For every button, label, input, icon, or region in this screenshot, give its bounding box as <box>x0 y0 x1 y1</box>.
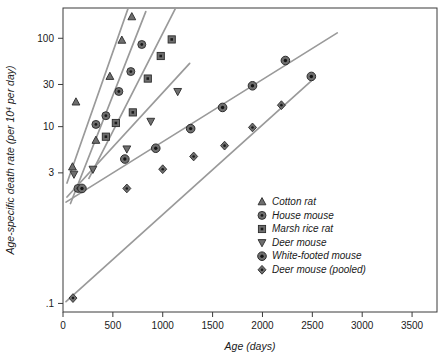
legend-marker-circle-dot-icon <box>258 211 266 219</box>
legend-marker-square-dot-icon <box>258 225 265 232</box>
x-tick-label: 500 <box>105 320 122 331</box>
legend-item-label: Deer mouse <box>272 237 327 248</box>
data-point-white-footed-mouse <box>121 155 130 164</box>
data-point-white-footed-mouse <box>248 81 257 90</box>
y-tick-label: 3 <box>48 167 54 178</box>
y-tick-label: 30 <box>43 79 55 90</box>
x-axis-title-group: Age (days) <box>224 340 276 352</box>
data-point-white-footed-mouse <box>186 124 195 133</box>
y-tick-label: 10 <box>43 121 55 132</box>
data-point-house-mouse <box>138 41 146 49</box>
y-tick-label: 100 <box>37 33 54 44</box>
data-point-marsh-rice-rat <box>129 109 136 116</box>
y-tick-label: .1 <box>46 298 55 309</box>
data-point-white-footed-mouse <box>78 184 87 193</box>
chart-figure-root: Age-specific death rate (per 104 per day… <box>0 0 444 357</box>
data-point-marsh-rice-rat <box>102 133 109 140</box>
x-tick-label: 2000 <box>251 320 274 331</box>
x-tick-label: 3000 <box>351 320 374 331</box>
legend-item-white-footed-mouse: White-footed mouse <box>258 250 362 261</box>
y-axis-title-main: Age-specific death rate (per 10 <box>4 111 16 256</box>
mortality-scatter-chart: Age-specific death rate (per 104 per day… <box>0 0 444 357</box>
data-point-house-mouse <box>102 112 110 120</box>
legend-item-label: Cotton rat <box>272 196 317 207</box>
legend-item-label: House mouse <box>272 210 334 221</box>
x-tick-label: 2500 <box>301 320 324 331</box>
x-tick-label: 1500 <box>201 320 224 331</box>
data-point-marsh-rice-rat <box>112 119 119 126</box>
legend-item-label: Deer mouse (pooled) <box>272 264 366 275</box>
data-point-white-footed-mouse <box>281 56 290 65</box>
x-axis-title: Age (days) <box>224 340 276 352</box>
x-tick-label: 1000 <box>152 320 175 331</box>
legend-item-deer-mouse-pooled: Deer mouse (pooled) <box>258 264 366 275</box>
legend-marker-circle-target-icon <box>258 252 267 261</box>
data-point-white-footed-mouse <box>218 103 227 112</box>
y-axis-title-group: Age-specific death rate (per 104 per day… <box>4 66 16 256</box>
data-point-house-mouse <box>92 120 100 128</box>
data-point-marsh-rice-rat <box>157 52 164 59</box>
x-tick-label: 0 <box>60 320 66 331</box>
legend-item-label: Marsh rice rat <box>272 223 334 234</box>
data-point-white-footed-mouse <box>307 72 316 81</box>
data-point-house-mouse <box>115 87 123 95</box>
x-tick-label: 3500 <box>401 320 424 331</box>
data-point-marsh-rice-rat <box>168 36 175 43</box>
y-axis-title-tail: per day) <box>4 66 16 107</box>
chart-background <box>0 0 444 357</box>
legend-item-label: White-footed mouse <box>272 250 362 261</box>
data-point-marsh-rice-rat <box>144 75 151 82</box>
data-point-white-footed-mouse <box>151 144 160 153</box>
data-point-house-mouse <box>127 68 135 76</box>
y-axis-title: Age-specific death rate (per 104 per day… <box>4 66 16 256</box>
